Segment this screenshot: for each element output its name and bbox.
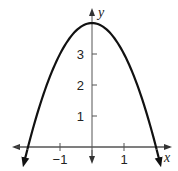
y-tick-label: 1 <box>77 109 84 124</box>
y-tick-label: 3 <box>77 47 84 62</box>
x-tick-label: 1 <box>120 152 127 167</box>
y-ticks: 123 <box>77 47 97 124</box>
parabola-chart: −11 123 x y <box>0 0 178 171</box>
y-tick-label: 2 <box>77 78 84 93</box>
y-axis-label: y <box>96 5 105 20</box>
curve-right-arrow-icon <box>157 149 160 162</box>
x-axis-label: x <box>163 150 171 165</box>
x-tick-label: −1 <box>53 152 68 167</box>
curve-left-arrow-icon <box>24 149 27 162</box>
